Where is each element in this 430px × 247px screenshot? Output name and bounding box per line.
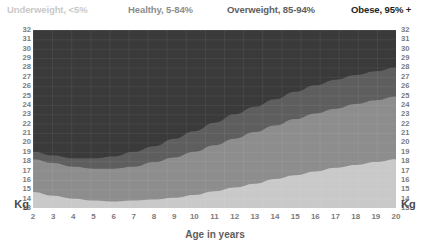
- x-tick-5: 5: [85, 212, 103, 221]
- y-tick-right-28: 28: [401, 63, 427, 71]
- y-tick-left-22: 22: [5, 120, 31, 128]
- x-tick-7: 7: [125, 212, 143, 221]
- y-tick-left-30: 30: [5, 45, 31, 53]
- y-tick-left-20: 20: [5, 138, 31, 146]
- y-tick-left-16: 16: [5, 176, 31, 184]
- y-tick-right-24: 24: [401, 101, 427, 109]
- y-tick-left-31: 31: [5, 35, 31, 43]
- y-tick-left-27: 27: [5, 73, 31, 81]
- y-axis-unit-left: Kg: [3, 198, 29, 210]
- y-tick-left-29: 29: [5, 54, 31, 62]
- x-tick-15: 15: [286, 212, 304, 221]
- y-axis-left: 3231302928272625242322212019181716151413: [3, 30, 31, 208]
- y-tick-left-23: 23: [5, 110, 31, 118]
- legend-item-obese: Obese, 95% +: [351, 4, 411, 15]
- legend-item-overweight: Overweight, 85-94%: [227, 4, 315, 15]
- x-tick-9: 9: [165, 212, 183, 221]
- x-tick-8: 8: [145, 212, 163, 221]
- y-tick-left-18: 18: [5, 157, 31, 165]
- x-tick-20: 20: [387, 212, 405, 221]
- legend-item-healthy: Healthy, 5-84%: [128, 4, 193, 15]
- y-tick-left-32: 32: [5, 26, 31, 34]
- x-axis-title: Age in years: [0, 229, 430, 240]
- y-tick-right-20: 20: [401, 138, 427, 146]
- x-axis: 234567891011121314151617181920: [33, 212, 396, 226]
- legend-item-underweight: Underweight, <5%: [7, 4, 88, 15]
- bmi-percentile-chart: Underweight, <5% Healthy, 5-84% Overweig…: [0, 0, 430, 247]
- y-tick-right-15: 15: [401, 185, 427, 193]
- y-tick-right-18: 18: [401, 157, 427, 165]
- y-tick-right-25: 25: [401, 92, 427, 100]
- x-tick-3: 3: [44, 212, 62, 221]
- y-tick-right-17: 17: [401, 167, 427, 175]
- y-tick-right-26: 26: [401, 82, 427, 90]
- x-tick-12: 12: [226, 212, 244, 221]
- x-tick-13: 13: [246, 212, 264, 221]
- x-tick-17: 17: [327, 212, 345, 221]
- chart-legend: Underweight, <5% Healthy, 5-84% Overweig…: [0, 0, 430, 24]
- y-axis-unit-right: Kg: [401, 198, 427, 210]
- y-tick-right-29: 29: [401, 54, 427, 62]
- y-axis-right: 3231302928272625242322212019181716151413: [399, 30, 427, 208]
- x-tick-19: 19: [367, 212, 385, 221]
- x-tick-10: 10: [185, 212, 203, 221]
- y-tick-right-21: 21: [401, 129, 427, 137]
- y-tick-right-31: 31: [401, 35, 427, 43]
- x-tick-2: 2: [24, 212, 42, 221]
- plot-area: [33, 30, 396, 208]
- y-tick-right-27: 27: [401, 73, 427, 81]
- y-tick-right-30: 30: [401, 45, 427, 53]
- x-tick-11: 11: [206, 212, 224, 221]
- x-tick-18: 18: [347, 212, 365, 221]
- y-tick-right-32: 32: [401, 26, 427, 34]
- y-tick-right-22: 22: [401, 120, 427, 128]
- y-tick-right-19: 19: [401, 148, 427, 156]
- y-tick-right-23: 23: [401, 110, 427, 118]
- grid-overlay: [33, 30, 396, 208]
- y-tick-left-24: 24: [5, 101, 31, 109]
- percentile-bands: [33, 30, 396, 208]
- x-tick-16: 16: [306, 212, 324, 221]
- x-tick-6: 6: [105, 212, 123, 221]
- y-tick-left-21: 21: [5, 129, 31, 137]
- x-tick-4: 4: [64, 212, 82, 221]
- y-tick-left-17: 17: [5, 167, 31, 175]
- x-tick-14: 14: [266, 212, 284, 221]
- y-tick-left-25: 25: [5, 92, 31, 100]
- y-tick-left-26: 26: [5, 82, 31, 90]
- y-tick-left-28: 28: [5, 63, 31, 71]
- y-tick-right-16: 16: [401, 176, 427, 184]
- y-tick-left-19: 19: [5, 148, 31, 156]
- y-tick-left-15: 15: [5, 185, 31, 193]
